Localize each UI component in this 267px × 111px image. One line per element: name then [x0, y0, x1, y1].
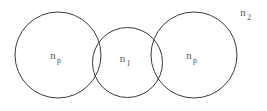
- left-circle-label-subscript: p: [57, 56, 61, 65]
- outside-medium-label: n 2: [240, 6, 251, 22]
- diagram-svg: n p n 1 n p n 2: [0, 0, 267, 111]
- middle-circle-label-subscript: 1: [127, 59, 131, 68]
- left-circle-label-base: n: [50, 49, 56, 61]
- right-circle-label-base: n: [186, 49, 192, 61]
- right-large-circle: [151, 12, 237, 98]
- left-large-circle: [15, 12, 101, 98]
- outside-medium-label-subscript: 2: [247, 13, 251, 22]
- middle-circle-label-base: n: [120, 52, 126, 64]
- outside-medium-label-base: n: [240, 6, 246, 18]
- diagram-canvas: n p n 1 n p n 2: [0, 0, 267, 111]
- right-circle-label-subscript: p: [193, 56, 197, 65]
